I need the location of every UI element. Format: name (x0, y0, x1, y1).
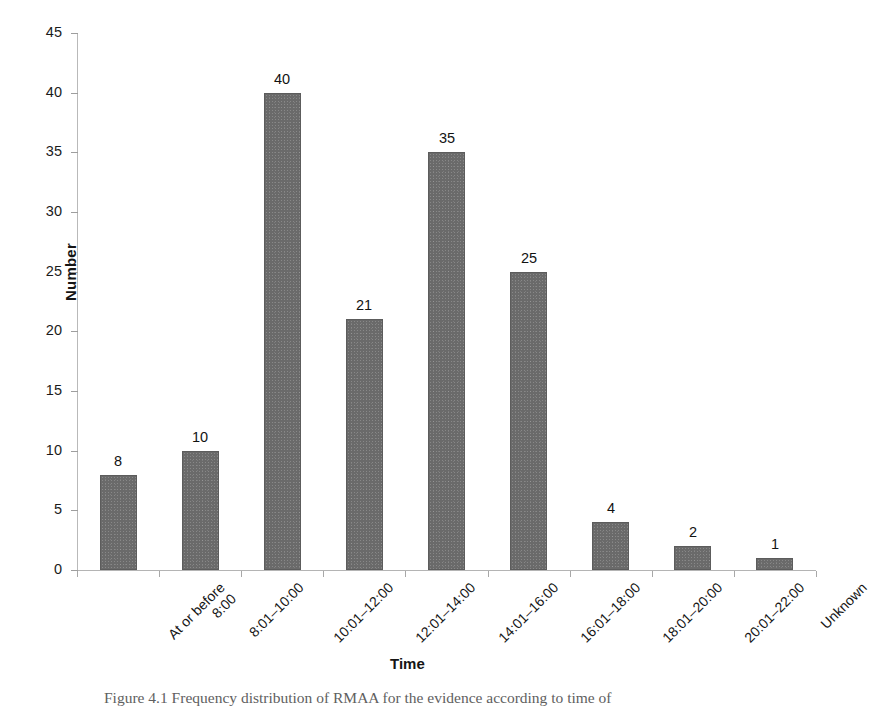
y-axis-tick-label-text: 0 (16, 562, 62, 577)
y-axis-tick-label: 15 (16, 383, 62, 397)
y-axis-tick-label: 20 (16, 323, 62, 337)
bar (674, 546, 711, 570)
bar-value-label: 4 (581, 501, 641, 516)
y-axis-tick (71, 152, 78, 153)
y-axis-tick-label-text: 5 (16, 502, 62, 517)
y-axis-tick (71, 391, 78, 392)
y-axis-tick-label: 45 (16, 25, 62, 39)
x-axis-category-label: 14:01–16:00 (496, 580, 562, 646)
bar (346, 319, 383, 570)
x-axis-category-label: 8:01–10:00 (247, 580, 308, 641)
y-axis-tick-label-text: 35 (16, 144, 62, 159)
y-axis-tick-label: 30 (16, 204, 62, 218)
y-axis-tick-label: 35 (16, 144, 62, 158)
x-axis-category-label: 20:01–22:00 (742, 580, 808, 646)
y-axis-tick-label: 5 (16, 502, 62, 516)
bar (756, 558, 793, 570)
bar (264, 93, 301, 570)
y-axis-tick-label-text: 20 (16, 323, 62, 338)
y-axis-tick-label-text: 40 (16, 85, 62, 100)
x-axis-category-label: Unknown (818, 580, 870, 632)
bar (592, 522, 629, 570)
y-axis-tick-label-text: 30 (16, 204, 62, 219)
y-axis-tick (71, 33, 78, 34)
x-axis-tick (159, 571, 160, 577)
y-axis-tick-label-text: 15 (16, 383, 62, 398)
bar (428, 152, 465, 570)
x-axis-tick (488, 571, 489, 577)
x-axis-category-label: At or before 8:00 (165, 580, 239, 654)
x-axis-tick (734, 571, 735, 577)
y-axis-tick (71, 331, 78, 332)
y-axis-tick-label-text: 10 (16, 443, 62, 458)
bar (510, 272, 547, 570)
x-axis-tick (77, 571, 78, 577)
x-axis-category-label: 12:01–14:00 (413, 580, 479, 646)
x-axis-tick (570, 571, 571, 577)
y-axis-tick (71, 272, 78, 273)
x-axis-tick (241, 571, 242, 577)
bar-value-label: 40 (252, 72, 312, 87)
bar-value-label: 1 (745, 537, 805, 552)
x-axis-category-label: 10:01–12:00 (331, 580, 397, 646)
y-axis-tick-label-text: 45 (16, 25, 62, 40)
y-axis-tick-label-text: 25 (16, 264, 62, 279)
figure-caption: Figure 4.1 Frequency distribution of RMA… (104, 688, 830, 707)
bar-value-label: 8 (88, 454, 148, 469)
bar (182, 451, 219, 570)
bar-value-label: 25 (499, 251, 559, 266)
y-axis-tick-label: 0 (16, 562, 62, 576)
bar-value-label: 35 (417, 131, 477, 146)
y-axis-tick-label: 40 (16, 85, 62, 99)
x-axis-line (77, 570, 816, 571)
bar-value-label: 21 (334, 298, 394, 313)
bar (100, 475, 137, 570)
y-axis-tick (71, 510, 78, 511)
x-axis-tick (652, 571, 653, 577)
x-axis-tick (816, 571, 817, 577)
chart-plot-area: Number 051015202530354045 81040213525421… (0, 0, 839, 600)
x-axis-title: Time (390, 655, 425, 672)
bar-value-label: 10 (170, 430, 230, 445)
y-axis-tick-label: 10 (16, 443, 62, 457)
y-axis-tick (71, 93, 78, 94)
x-axis-tick (323, 571, 324, 577)
x-axis-tick (405, 571, 406, 577)
y-axis-tick (71, 451, 78, 452)
x-axis-category-label: 16:01–18:00 (578, 580, 644, 646)
bar-value-label: 2 (663, 525, 723, 540)
x-axis-category-label: 18:01–20:00 (660, 580, 726, 646)
y-axis-tick-label: 25 (16, 264, 62, 278)
y-axis-line (77, 33, 78, 571)
y-axis-tick (71, 212, 78, 213)
